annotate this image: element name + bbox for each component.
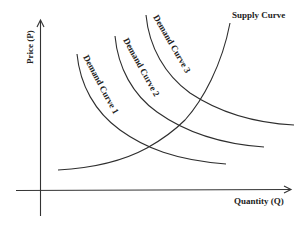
x-axis-label: Quantity (Q)	[234, 196, 284, 206]
x-axis	[16, 190, 291, 191]
supply-curve-label: Supply Curve	[232, 10, 285, 20]
demand-curve-2-label: Demand Curve 2	[121, 36, 162, 99]
demand-curve-3-label: Demand Curve 3	[151, 13, 193, 75]
supply-curve	[58, 23, 230, 170]
y-axis-label: Price (P)	[25, 30, 35, 64]
axes	[16, 20, 291, 216]
supply-demand-diagram: Price (P) Quantity (Q) Supply Curve Dema…	[0, 0, 308, 226]
demand-curve-1-label: Demand Curve 1	[81, 53, 121, 116]
